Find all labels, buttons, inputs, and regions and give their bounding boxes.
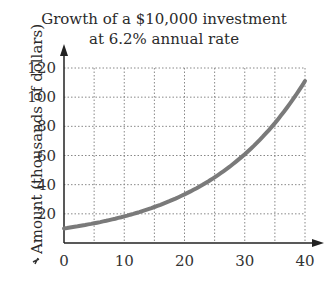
y-tick-label: 120	[27, 59, 56, 77]
y-tick-label: 20	[37, 205, 56, 223]
x-tick-labels: 010203040	[59, 252, 314, 270]
x-tick-label: 0	[59, 252, 69, 270]
axes	[33, 44, 324, 264]
y-tick-label: 40	[37, 176, 56, 194]
y-axis-arrow-icon	[60, 44, 68, 56]
x-tick-label: 30	[235, 252, 254, 270]
y-tick-labels: 20406080100120	[27, 59, 56, 223]
axis-break-icon	[33, 258, 39, 264]
x-tick-label: 20	[175, 252, 194, 270]
x-tick-label: 40	[295, 252, 314, 270]
x-tick-label: 10	[115, 252, 134, 270]
y-tick-label: 80	[37, 117, 56, 135]
y-tick-label: 100	[27, 88, 56, 106]
x-axis-arrow-icon	[312, 239, 324, 247]
grid-lines	[64, 68, 305, 243]
chart-plot: 010203040 20406080100120	[0, 0, 328, 282]
y-tick-label: 60	[37, 147, 56, 165]
